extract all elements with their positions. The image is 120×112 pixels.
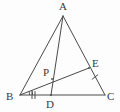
point-dot-p bbox=[51, 78, 53, 80]
point-dot-e bbox=[88, 67, 90, 69]
vertex-label-d: D bbox=[46, 99, 54, 110]
side-ac-line bbox=[63, 16, 105, 95]
cevians bbox=[20, 16, 89, 95]
vertex-label-b: B bbox=[6, 91, 13, 102]
triangle-outline bbox=[20, 16, 105, 95]
angle-arc-inner bbox=[29, 91, 30, 95]
point-dot-d bbox=[50, 94, 52, 96]
vertex-label-a: A bbox=[59, 1, 67, 12]
vertex-label-c: C bbox=[107, 91, 114, 102]
vertex-label-e: E bbox=[92, 58, 99, 69]
geometry-canvas bbox=[0, 0, 120, 112]
point-dots bbox=[50, 67, 90, 96]
vertex-label-p: P bbox=[43, 67, 49, 78]
geometry-figure: A B C D E P bbox=[0, 0, 120, 112]
